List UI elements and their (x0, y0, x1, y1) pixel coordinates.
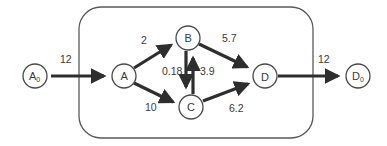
node-label: A (121, 70, 129, 82)
node-label: C (187, 101, 195, 113)
edge-b-d (199, 44, 247, 67)
edge-label-a-c: 10 (145, 101, 157, 113)
edge-label-a0-a: 12 (60, 53, 72, 65)
edge-a-c (134, 83, 173, 102)
edge-c-d (203, 84, 248, 101)
node-d0: D0 (346, 64, 370, 88)
edge-label-b-d: 5.7 (222, 32, 237, 44)
node-label: B (185, 32, 192, 44)
node-c: C (179, 95, 203, 119)
node-a0: A0 (23, 64, 47, 88)
edge-label-a-b: 2 (141, 34, 147, 46)
flow-diagram: 12 2 10 0.18 3.9 5.7 6.2 12 A0 A B C D D… (0, 0, 387, 146)
edge-label-d-d0: 12 (318, 53, 330, 65)
edge-label-c-b: 3.9 (200, 65, 215, 77)
edge-label-c-d: 6.2 (229, 102, 244, 114)
node-b: B (176, 26, 200, 50)
edges (51, 44, 338, 102)
node-label: D (261, 71, 269, 83)
node-d: D (253, 64, 277, 88)
edge-label-b-c: 0.18 (162, 65, 183, 77)
node-a: A (112, 64, 136, 88)
